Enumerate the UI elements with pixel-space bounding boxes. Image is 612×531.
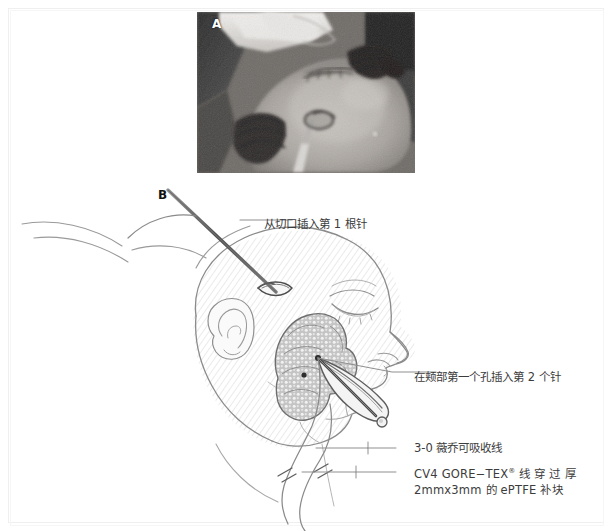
callout-needle-two: 在颊部第一个孔插入第 2 个针	[414, 369, 561, 385]
goretex-line-1-tail: 线 穿 过 厚	[516, 467, 576, 481]
callout-goretex-patch: CV4 GORE−TEX® 线 穿 过 厚 2mmx3mm 的 ePTFE 补块	[414, 463, 604, 498]
registered-mark-icon: ®	[508, 467, 515, 475]
panel-a-photograph	[197, 12, 415, 173]
goretex-brand: CV4 GORE−TEX	[414, 467, 508, 481]
callout-vicryl-suture: 3-0 薇乔可吸收线	[414, 440, 502, 456]
callout-goretex-line-1: CV4 GORE−TEX® 线 穿 过 厚	[414, 463, 604, 482]
callout-needle-one: 从切口插入第 1 根针	[264, 216, 367, 232]
panel-a-letter: A	[212, 17, 222, 31]
callout-goretex-line-2: 2mmx3mm 的 ePTFE 补块	[414, 482, 604, 498]
figure-root: A B	[0, 0, 612, 531]
